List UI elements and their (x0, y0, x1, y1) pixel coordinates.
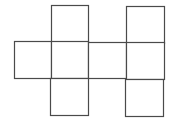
face-square-middle-4 (127, 43, 165, 80)
face-square-bottom-right (126, 80, 164, 117)
face-square-middle-2 (52, 42, 89, 79)
face-square-bottom-left (51, 79, 89, 116)
face-square-middle-3 (89, 43, 127, 79)
face-square-top-right (127, 7, 165, 44)
face-square-top-left (52, 6, 89, 43)
cube-net-diagram (0, 0, 176, 120)
face-square-middle-1 (15, 42, 52, 79)
